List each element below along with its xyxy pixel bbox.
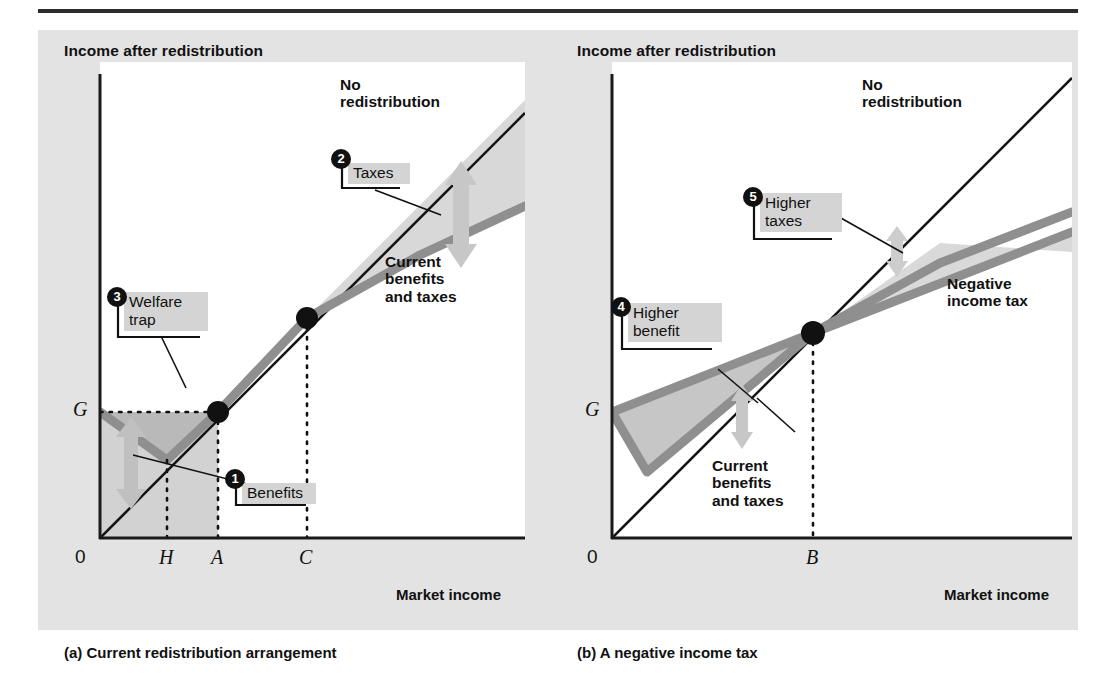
- panel-b-y-axis-title: Income after redistribution: [577, 42, 776, 60]
- panel-a-callout-3-label: Welfare trap: [124, 292, 208, 331]
- panel-b-x-tick-origin: 0: [587, 546, 598, 568]
- panel-a-callout-1-badge: 1: [225, 469, 245, 489]
- panel-b-callout-4-badge: 4: [611, 297, 631, 317]
- panel-b-negative-income-tax-label: Negative income tax: [947, 275, 1028, 310]
- panel-a-x-tick-h: H: [159, 546, 173, 569]
- panel-b-x-tick-b: B: [806, 546, 818, 569]
- panel-a-callout-2-badge: 2: [331, 149, 351, 169]
- panel-a-x-axis-title: Market income: [396, 586, 501, 603]
- panel-b-y-tick-g: G: [585, 398, 599, 421]
- panel-b-callout-4-label: Higher benefit: [628, 303, 722, 342]
- panel-b-callout-5-label: Higher taxes: [760, 193, 842, 232]
- panel-a-y-tick-g: G: [73, 398, 87, 421]
- panel-b-current-benefits-and-taxes-label: Current benefits and taxes: [712, 457, 784, 509]
- panel-a-caption: (a) Current redistribution arrangement: [64, 644, 337, 661]
- panel-a-x-tick-c: C: [299, 546, 312, 569]
- panel-b-x-axis-title: Market income: [944, 586, 1049, 603]
- panel-a-callout-3-badge: 3: [107, 287, 127, 307]
- top-rule: [38, 9, 1078, 13]
- panel-a-y-axis-title: Income after redistribution: [64, 42, 263, 60]
- panel-a-callout-2-label: Taxes: [348, 163, 410, 184]
- panel-a-x-tick-origin: 0: [75, 546, 86, 568]
- panel-b-no-redistribution-label: No redistribution: [862, 76, 962, 111]
- panel-a-no-redistribution-label: No redistribution: [340, 76, 440, 111]
- panel-a-current-benefits-and-taxes-label: Current benefits and taxes: [385, 253, 457, 305]
- panel-a-callout-1-label: Benefits: [242, 483, 316, 504]
- figure-root: Income after redistribution Income after…: [0, 0, 1118, 697]
- panel-a-x-tick-a: A: [211, 546, 223, 569]
- panel-b-callout-5-badge: 5: [743, 187, 763, 207]
- panel-b-caption: (b) A negative income tax: [577, 644, 758, 661]
